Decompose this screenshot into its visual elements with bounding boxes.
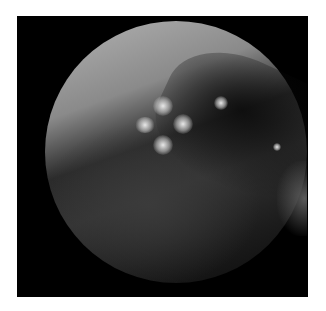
tissue-lobe xyxy=(277,161,308,236)
highlight-spot xyxy=(273,143,281,151)
endoscope-field xyxy=(45,21,307,283)
image-frame xyxy=(17,16,308,297)
highlight-spot xyxy=(153,96,173,116)
highlight-spot xyxy=(153,135,173,155)
highlight-spot xyxy=(214,96,228,110)
highlight-spot xyxy=(173,114,193,134)
highlight-spot xyxy=(135,117,155,133)
